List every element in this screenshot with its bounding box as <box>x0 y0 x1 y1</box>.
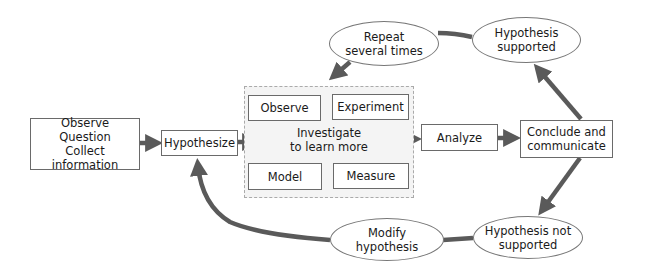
arrow-repeat-to-investigate <box>335 62 350 75</box>
investigate-label: Investigate to learn more <box>270 126 388 154</box>
activity-experiment: Experiment <box>332 94 409 120</box>
line-not-supported-to-modify <box>443 238 473 240</box>
activity-observe: Observe <box>248 95 321 121</box>
arrow-conclude-to-supported <box>539 70 581 119</box>
arrow-conclude-to-not-supported <box>543 158 580 209</box>
hypothesize-box: Hypothesize <box>161 130 238 156</box>
hypothesis-supported-ellipse: Hypothesis supported <box>472 17 581 63</box>
line-supported-to-repeat <box>438 33 472 37</box>
repeat-several-times-ellipse: Repeat several times <box>329 21 439 66</box>
conclude-communicate-box: Conclude and communicate <box>520 120 613 158</box>
hypothesis-not-supported-ellipse: Hypothesis not supported <box>473 216 583 259</box>
observe-question-collect-box: Observe Question Collect information <box>30 118 140 170</box>
activity-model: Model <box>248 163 322 190</box>
analyze-box: Analyze <box>421 124 498 151</box>
activity-measure: Measure <box>333 163 409 189</box>
modify-hypothesis-ellipse: Modify hypothesis <box>330 218 444 261</box>
